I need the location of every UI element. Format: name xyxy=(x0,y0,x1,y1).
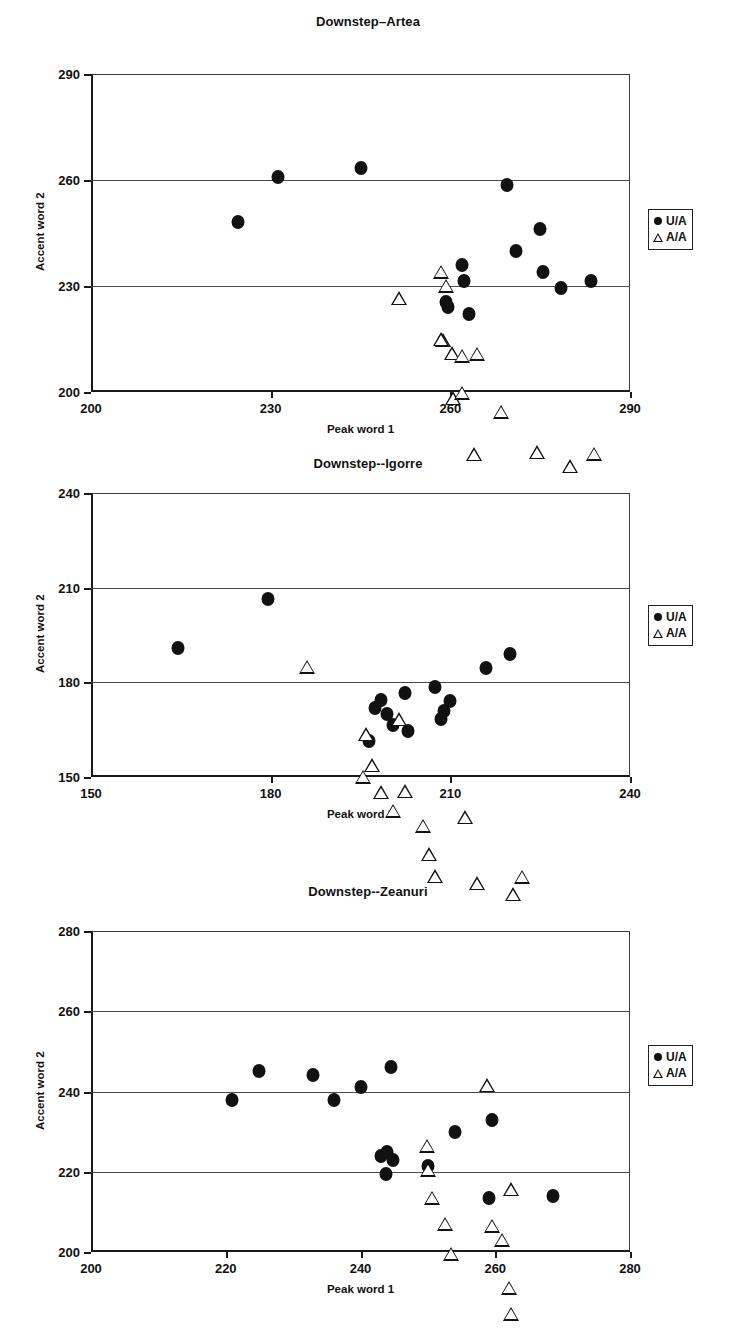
data-point-aa xyxy=(493,405,509,419)
chart-panel-zeanuri: Downstep--Zeanuri 2002202402602802002202… xyxy=(0,875,736,1329)
x-axis-tick-label: 260 xyxy=(484,1261,506,1276)
legend-label: A/A xyxy=(666,1067,687,1079)
chart-title: Downstep–Artea xyxy=(0,14,736,29)
data-point-aa xyxy=(501,1281,517,1295)
x-axis-label: Peak word 1 xyxy=(327,423,394,435)
x-axis-tick-label: 260 xyxy=(439,401,461,416)
y-axis-tick xyxy=(84,682,91,684)
y-axis-tick xyxy=(84,180,91,182)
x-axis-tick-label: 290 xyxy=(619,401,641,416)
x-axis-tick-label: 230 xyxy=(260,401,282,416)
y-axis-tick xyxy=(84,392,91,394)
y-axis-tick-label: 230 xyxy=(58,279,80,294)
gridline-horizontal xyxy=(91,180,630,181)
y-axis-tick-label: 200 xyxy=(58,385,80,400)
y-axis-tick-label: 150 xyxy=(58,770,80,785)
filled-circle-icon xyxy=(654,217,662,225)
x-axis-tick xyxy=(271,392,273,398)
legend: U/A A/A xyxy=(648,209,693,250)
y-axis-tick-label: 210 xyxy=(58,580,80,595)
data-point-aa xyxy=(503,1307,519,1321)
y-axis-label: Accent word 2 xyxy=(34,594,46,673)
plot-frame xyxy=(91,74,630,392)
legend-item-aa: A/A xyxy=(653,625,687,641)
x-axis-tick-label: 180 xyxy=(260,786,282,801)
y-axis-tick-label: 280 xyxy=(58,924,80,939)
gridline-horizontal xyxy=(91,588,630,589)
legend-label: U/A xyxy=(666,611,687,623)
y-axis-tick xyxy=(84,588,91,590)
filled-circle-icon xyxy=(654,613,662,621)
x-axis-tick xyxy=(630,392,632,398)
y-axis-tick xyxy=(84,74,91,76)
legend-item-aa: A/A xyxy=(653,229,687,245)
x-axis-tick xyxy=(226,1252,228,1258)
legend-item-ua: U/A xyxy=(653,609,687,625)
filled-circle-icon xyxy=(654,1053,662,1061)
x-axis-tick xyxy=(271,777,273,783)
y-axis-tick-label: 260 xyxy=(58,173,80,188)
open-triangle-icon xyxy=(653,1069,663,1078)
data-point-aa xyxy=(397,784,413,798)
data-point-aa xyxy=(421,847,437,861)
y-axis-tick-label: 260 xyxy=(58,1004,80,1019)
y-axis-tick xyxy=(84,1092,91,1094)
chart-panel-artea: Downstep–Artea 200230260290200230260290P… xyxy=(0,0,736,450)
open-triangle-icon xyxy=(653,233,663,242)
y-axis-tick xyxy=(84,1252,91,1254)
legend-item-ua: U/A xyxy=(653,1049,687,1065)
chart-title: Downstep--Zeanuri xyxy=(0,884,736,899)
y-axis-tick xyxy=(84,1172,91,1174)
data-point-aa xyxy=(415,819,431,833)
data-point-aa xyxy=(373,785,389,799)
plot-frame xyxy=(91,493,630,777)
gridline-horizontal xyxy=(91,1172,630,1173)
y-axis-tick-label: 240 xyxy=(58,486,80,501)
y-axis-tick xyxy=(84,286,91,288)
x-axis-tick-label: 210 xyxy=(439,786,461,801)
y-axis-tick-label: 180 xyxy=(58,675,80,690)
x-axis-tick xyxy=(630,1252,632,1258)
x-axis-tick xyxy=(450,777,452,783)
gridline-horizontal xyxy=(91,1092,630,1093)
open-triangle-icon xyxy=(653,629,663,638)
legend-item-ua: U/A xyxy=(653,213,687,229)
gridline-horizontal xyxy=(91,286,630,287)
x-axis-label: Peak word 1 xyxy=(327,1283,394,1295)
x-axis-tick xyxy=(450,392,452,398)
x-axis-label: Peak word 1 xyxy=(327,808,394,820)
chart-title: Downstep--Igorre xyxy=(0,456,736,471)
x-axis-tick-label: 280 xyxy=(619,1261,641,1276)
y-axis-tick-label: 290 xyxy=(58,67,80,82)
legend: U/A A/A xyxy=(648,1045,693,1086)
plot-area-igorre: 150180210240150180210240Peak word 1 xyxy=(91,493,630,777)
y-axis-tick xyxy=(84,931,91,933)
data-point-aa xyxy=(457,810,473,824)
y-axis-tick xyxy=(84,493,91,495)
x-axis-tick-label: 200 xyxy=(80,1261,102,1276)
y-axis-label: Accent word 2 xyxy=(34,1051,46,1130)
y-axis-tick-label: 200 xyxy=(58,1245,80,1260)
legend: U/A A/A xyxy=(648,605,693,646)
legend-label: U/A xyxy=(666,1051,687,1063)
x-axis-tick-label: 220 xyxy=(215,1261,237,1276)
y-axis-label: Accent word 2 xyxy=(34,192,46,271)
y-axis-tick xyxy=(84,1011,91,1013)
legend-label: U/A xyxy=(666,215,687,227)
x-axis-tick xyxy=(361,1252,363,1258)
gridline-horizontal xyxy=(91,1011,630,1012)
x-axis-tick xyxy=(495,1252,497,1258)
y-axis-tick-label: 220 xyxy=(58,1164,80,1179)
chart-panel-igorre: Downstep--Igorre 15018021024015018021024… xyxy=(0,450,736,875)
y-axis-tick-label: 240 xyxy=(58,1084,80,1099)
x-axis-tick-label: 240 xyxy=(350,1261,372,1276)
gridline-horizontal xyxy=(91,682,630,683)
plot-area-zeanuri: 200220240260280200220240260280Peak word … xyxy=(91,931,630,1252)
y-axis-tick xyxy=(84,777,91,779)
plot-area-artea: 200230260290200230260290Peak word 1 xyxy=(91,74,630,392)
legend-item-aa: A/A xyxy=(653,1065,687,1081)
x-axis-tick-label: 240 xyxy=(619,786,641,801)
x-axis-tick xyxy=(630,777,632,783)
legend-label: A/A xyxy=(666,231,687,243)
legend-label: A/A xyxy=(666,627,687,639)
